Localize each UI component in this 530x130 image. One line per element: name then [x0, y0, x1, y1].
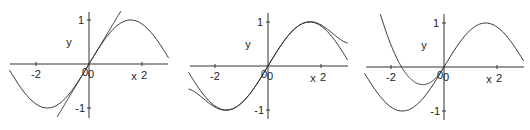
origin-label-2: 0 [88, 68, 94, 80]
y-axis-label: y [421, 39, 427, 51]
origin-label-2: 0 [443, 71, 449, 83]
panel-tangent-line: -2 2 1 -1 x y 0 0 [10, 11, 169, 118]
ytick-label-1: 1 [257, 16, 263, 28]
panel-quadratic-approx: -2 2 1 -1 x y 0 0 [365, 14, 525, 120]
x-axis-label: x [486, 73, 492, 85]
xtick-label-2: 2 [496, 72, 502, 84]
ytick-label-neg1: -1 [254, 104, 264, 116]
xtick-label-neg2: -2 [386, 71, 396, 83]
y-axis-label: y [245, 38, 251, 50]
panel-degree5-taylor: -2 2 1 -1 x y 0 0 [189, 13, 349, 119]
figure: -2 2 1 -1 x y 0 0 -2 2 1 -1 x y 0 0 -2 2… [0, 0, 530, 130]
ytick-label-neg1: -1 [430, 105, 440, 117]
ytick-label-neg1: -1 [75, 102, 85, 114]
xtick-label-2: 2 [141, 69, 147, 81]
xtick-label-neg2: -2 [31, 68, 41, 80]
xtick-label-2: 2 [320, 71, 326, 83]
y-axis-label: y [66, 36, 72, 48]
ytick-label-1: 1 [78, 14, 84, 26]
ytick-label-1: 1 [433, 17, 439, 29]
origin-label-2: 0 [267, 70, 273, 82]
xtick-label-neg2: -2 [210, 70, 220, 82]
x-axis-label: x [131, 70, 137, 82]
x-axis-label: x [310, 72, 316, 84]
